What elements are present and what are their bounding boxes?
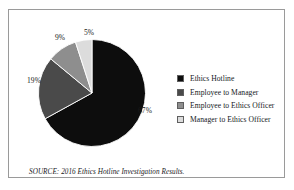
legend-item-label: Employee to Manager	[190, 88, 258, 97]
pie-value-label-manager-to-ethics-officer: 5%	[84, 28, 94, 37]
legend-swatch-icon	[177, 75, 184, 82]
pie-value-label-ethics-hotline: 67%	[138, 106, 152, 115]
legend-item-label: Ethics Hotline	[190, 74, 234, 83]
legend-item: Employee to Manager	[177, 86, 294, 100]
pie-slice-group	[39, 40, 146, 147]
pie-chart	[38, 39, 146, 147]
figure-border-frame: 67% 19% 9% 5% Ethics HotlineEmployee to …	[8, 9, 285, 178]
legend-item-label: Manager to Ethics Officer	[190, 115, 271, 124]
legend-item-label: Employee to Ethics Officer	[190, 101, 274, 110]
legend-item: Employee to Ethics Officer	[177, 99, 294, 113]
pie-value-label-employee-to-ethics-officer: 9%	[55, 33, 65, 42]
legend-swatch-icon	[177, 102, 184, 109]
legend-swatch-icon	[177, 89, 184, 96]
chart-legend: Ethics HotlineEmployee to ManagerEmploye…	[177, 72, 294, 126]
legend-swatch-icon	[177, 116, 184, 123]
pie-chart-area: 67% 19% 9% 5%	[27, 28, 167, 158]
legend-item: Manager to Ethics Officer	[177, 113, 294, 127]
pie-chart-svg	[38, 39, 146, 147]
legend-item: Ethics Hotline	[177, 72, 294, 86]
pie-value-label-employee-to-manager: 19%	[27, 76, 41, 85]
figure-root: 67% 19% 9% 5% Ethics HotlineEmployee to …	[0, 0, 294, 190]
source-caption: SOURCE: 2016 Ethics Hotline Investigatio…	[29, 168, 184, 176]
